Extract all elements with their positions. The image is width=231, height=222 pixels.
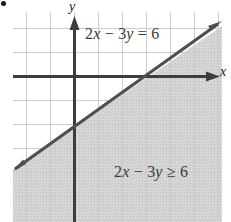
- bullet-marker-icon: [1, 1, 6, 6]
- graph-figure: y x 2x − 3y = 6 2x − 3y ≥ 6: [0, 0, 231, 222]
- y-axis-label: y: [69, 0, 75, 15]
- x-axis-label: x: [220, 64, 226, 80]
- inequality-region-label: 2x − 3y ≥ 6: [114, 163, 188, 181]
- line-equation-label: 2x − 3y = 6: [85, 25, 159, 43]
- coordinate-plane-svg: [13, 12, 222, 222]
- plot-area: [13, 12, 222, 222]
